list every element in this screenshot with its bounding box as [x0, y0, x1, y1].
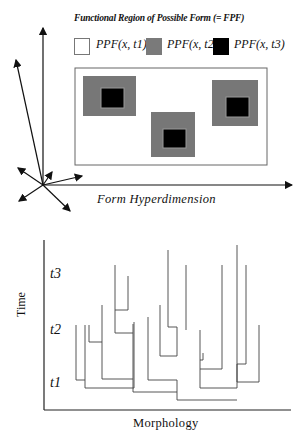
x-axis-label-morphology: Morphology	[133, 416, 199, 431]
ppf-region-1	[83, 76, 136, 116]
ppf-region-3	[212, 80, 258, 126]
time-label-t2: t2	[50, 322, 61, 338]
y-axis-label-time: Time	[14, 292, 29, 317]
time-label-t3: t3	[50, 266, 61, 282]
phylogeny-axes	[44, 240, 291, 410]
time-label-t1: t1	[50, 375, 61, 391]
phylogenetic-tree	[76, 245, 259, 400]
diagram-graphics	[0, 0, 308, 437]
ppf-region-2	[151, 112, 195, 157]
x-axis-label-top: Form Hyperdimension	[97, 192, 216, 207]
